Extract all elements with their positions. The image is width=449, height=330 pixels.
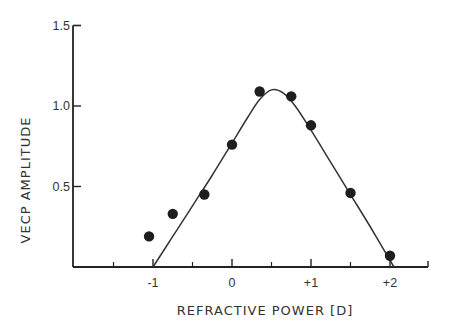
data-point xyxy=(306,120,316,130)
data-point xyxy=(227,139,237,149)
y-tick-label: 1.5 xyxy=(53,19,70,33)
x-tick-label: +2 xyxy=(383,276,397,290)
data-point xyxy=(385,251,395,261)
x-tick-label: -1 xyxy=(147,276,158,290)
y-tick-label: 1.0 xyxy=(53,99,70,113)
x-tick-label: 0 xyxy=(229,276,236,290)
chart: 0.51.01.5-10+1+2 VECP AMPLITUDE REFRACTI… xyxy=(0,0,449,330)
x-tick-label: +1 xyxy=(304,276,318,290)
data-point xyxy=(199,189,209,199)
axes xyxy=(73,26,428,268)
fitted-curve xyxy=(153,90,394,267)
y-axis-title: VECP AMPLITUDE xyxy=(18,117,33,244)
data-point xyxy=(286,91,296,101)
tick-marks xyxy=(73,106,390,267)
data-points xyxy=(144,86,395,261)
data-point xyxy=(345,188,355,198)
x-axis-title: REFRACTIVE POWER [D] xyxy=(177,303,353,318)
data-point xyxy=(144,231,154,241)
y-tick-label: 0.5 xyxy=(53,180,70,194)
data-point xyxy=(254,86,264,96)
data-point xyxy=(168,209,178,219)
